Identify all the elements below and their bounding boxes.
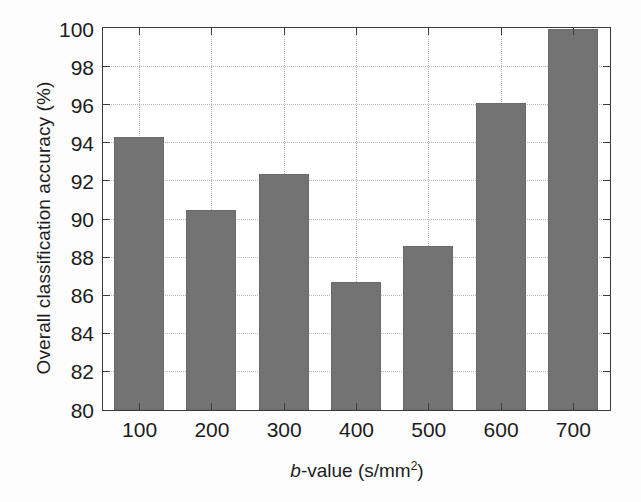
x-axis-tick-label: 100 <box>105 419 175 440</box>
y-axis-tick-mark <box>103 219 110 220</box>
x-axis-tick-label: 500 <box>394 419 464 440</box>
x-axis-tick-mark-top <box>211 28 212 35</box>
x-axis-tick-mark-top <box>284 28 285 35</box>
y-axis-tick-mark-right <box>603 333 610 334</box>
y-axis-tick-mark-right <box>603 295 610 296</box>
y-axis-tick-labels: 80828486889092949698100 <box>50 27 94 411</box>
x-axis-tick-mark-top <box>356 28 357 35</box>
y-axis-tick-label: 82 <box>54 361 94 382</box>
bar <box>403 246 453 410</box>
bar <box>114 137 164 410</box>
y-axis-tick-label: 90 <box>54 209 94 230</box>
x-axis-tick-mark <box>501 403 502 410</box>
bar <box>476 103 526 410</box>
x-axis-title-close: ) <box>417 460 423 481</box>
y-axis-tick-label: 94 <box>54 132 94 153</box>
y-axis-tick-label: 88 <box>54 247 94 268</box>
x-axis-tick-label: 600 <box>466 419 536 440</box>
x-axis-title: b-value (s/mm2) <box>102 459 612 482</box>
x-axis-tick-label: 700 <box>538 419 608 440</box>
y-axis-tick-mark-right <box>603 219 610 220</box>
y-axis-tick-label: 100 <box>54 18 94 39</box>
x-axis-tick-mark <box>211 403 212 410</box>
y-axis-tick-mark <box>103 142 110 143</box>
x-axis-tick-mark-top <box>428 28 429 35</box>
x-axis-tick-labels: 100200300400500600700 <box>102 419 611 449</box>
x-axis-tick-mark <box>428 403 429 410</box>
bar <box>186 210 236 410</box>
x-axis-tick-mark <box>573 403 574 410</box>
x-axis-title-rest: -value (s/mm <box>301 460 411 481</box>
y-axis-tick-mark-right <box>603 371 610 372</box>
x-axis-tick-label: 300 <box>249 419 319 440</box>
bar <box>259 174 309 410</box>
bar-chart-figure: Overall classification accuracy (%) 8082… <box>0 0 641 502</box>
y-axis-tick-label: 86 <box>54 285 94 306</box>
plot-inner <box>103 28 610 410</box>
x-axis-tick-mark-top <box>139 28 140 35</box>
x-axis-tick-mark <box>284 403 285 410</box>
y-axis-tick-mark <box>103 104 110 105</box>
y-axis-tick-mark-right <box>603 257 610 258</box>
y-axis-tick-mark <box>103 257 110 258</box>
y-axis-tick-label: 92 <box>54 170 94 191</box>
y-axis-tick-mark-right <box>603 104 610 105</box>
x-axis-title-italic-b: b <box>290 460 301 481</box>
x-axis-tick-mark <box>139 403 140 410</box>
y-axis-tick-mark-right <box>603 66 610 67</box>
bar <box>548 29 598 410</box>
bar <box>331 282 381 410</box>
y-axis-tick-label: 84 <box>54 323 94 344</box>
y-axis-tick-mark-right <box>603 142 610 143</box>
x-axis-tick-mark-top <box>501 28 502 35</box>
y-axis-tick-mark <box>103 66 110 67</box>
y-axis-tick-label: 96 <box>54 94 94 115</box>
x-axis-tick-label: 400 <box>322 419 392 440</box>
x-axis-tick-mark <box>356 403 357 410</box>
plot-area <box>102 27 611 411</box>
x-axis-tick-label: 200 <box>177 419 247 440</box>
y-axis-tick-label: 80 <box>54 399 94 420</box>
x-axis-tick-mark-top <box>573 28 574 35</box>
y-axis-tick-mark <box>103 371 110 372</box>
y-axis-tick-mark <box>103 180 110 181</box>
y-axis-tick-mark-right <box>603 180 610 181</box>
y-axis-tick-label: 98 <box>54 56 94 77</box>
y-axis-tick-mark <box>103 295 110 296</box>
y-axis-tick-mark <box>103 333 110 334</box>
